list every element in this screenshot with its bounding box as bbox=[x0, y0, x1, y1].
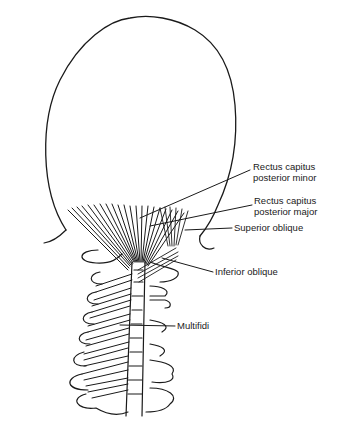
multifidi-muscle bbox=[82, 274, 132, 398]
leader-rcp-minor bbox=[140, 170, 250, 218]
label-line: Multifidi bbox=[177, 320, 209, 331]
vertebrae-right bbox=[146, 262, 178, 412]
anatomy-diagram: Rectus capitus posterior minor Rectus ca… bbox=[0, 0, 338, 421]
label-superior-oblique: Superior oblique bbox=[234, 222, 303, 233]
label-multifidi: Multifidi bbox=[177, 320, 209, 331]
label-rectus-capitus-posterior-minor: Rectus capitus posterior minor bbox=[253, 161, 316, 183]
label-line: posterior major bbox=[254, 206, 317, 217]
spinous-column bbox=[126, 262, 145, 416]
leader-multifidi bbox=[120, 325, 175, 326]
leader-inferior-oblique bbox=[162, 258, 213, 272]
label-inferior-oblique: Inferior oblique bbox=[215, 266, 278, 277]
leader-lines bbox=[120, 170, 252, 326]
label-rectus-capitus-posterior-major: Rectus capitus posterior major bbox=[254, 195, 317, 217]
label-line: posterior minor bbox=[253, 172, 316, 183]
leader-superior-oblique bbox=[185, 228, 232, 230]
label-line: Superior oblique bbox=[234, 222, 303, 233]
label-line: Rectus capitus bbox=[253, 161, 316, 172]
label-line: Inferior oblique bbox=[215, 266, 278, 277]
head-outline bbox=[46, 17, 236, 237]
label-line: Rectus capitus bbox=[254, 195, 317, 206]
rectus-fan-left bbox=[68, 204, 140, 270]
